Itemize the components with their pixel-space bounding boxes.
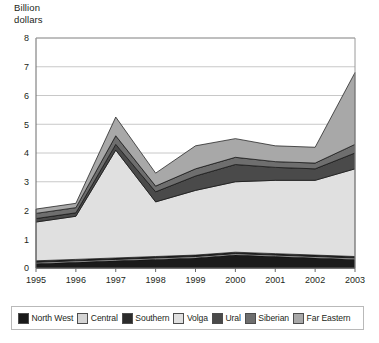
chart-legend: North WestCentralSouthernVolgaUralSiberi… xyxy=(11,306,364,330)
legend-item-label: Ural xyxy=(225,313,240,323)
legend-item-north-west[interactable]: North West xyxy=(18,313,73,324)
x-tick-label: 1995 xyxy=(26,275,46,285)
x-tick-label: 2000 xyxy=(225,275,245,285)
legend-item-ural[interactable]: Ural xyxy=(212,313,241,324)
legend-swatch-icon xyxy=(18,313,29,324)
legend-item-label: Volga xyxy=(187,313,208,323)
legend-swatch-icon xyxy=(173,313,184,324)
legend-item-label: Southern xyxy=(135,313,169,323)
stacked-area-chart: Billion dollars 012345678199519961997199… xyxy=(0,0,379,343)
legend-item-central[interactable]: Central xyxy=(77,313,118,324)
legend-item-label: Siberian xyxy=(258,313,289,323)
x-tick-label: 1997 xyxy=(106,275,126,285)
y-tick-label: 8 xyxy=(24,33,29,43)
x-tick-label: 1998 xyxy=(146,275,166,285)
legend-item-label: North West xyxy=(32,313,74,323)
y-tick-label: 4 xyxy=(24,148,29,158)
legend-item-volga[interactable]: Volga xyxy=(173,313,208,324)
y-tick-label: 5 xyxy=(24,120,29,130)
legend-swatch-icon xyxy=(77,313,88,324)
legend-item-label: Central xyxy=(91,313,118,323)
y-tick-label: 1 xyxy=(24,235,29,245)
legend-item-siberian[interactable]: Siberian xyxy=(245,313,289,324)
x-tick-label: 2003 xyxy=(345,275,365,285)
y-tick-label: 6 xyxy=(24,91,29,101)
legend-swatch-icon xyxy=(122,313,133,324)
legend-item-far-eastern[interactable]: Far Eastern xyxy=(293,313,350,324)
legend-item-label: Far Eastern xyxy=(307,313,351,323)
legend-swatch-icon xyxy=(293,313,304,324)
x-tick-label: 2001 xyxy=(265,275,285,285)
legend-item-southern[interactable]: Southern xyxy=(122,313,170,324)
y-tick-label: 7 xyxy=(24,62,29,72)
y-tick-label: 3 xyxy=(24,177,29,187)
x-tick-label: 1999 xyxy=(185,275,205,285)
legend-swatch-icon xyxy=(212,313,223,324)
y-tick-label: 0 xyxy=(24,263,29,273)
x-tick-label: 1996 xyxy=(66,275,86,285)
legend-swatch-icon xyxy=(245,313,256,324)
y-tick-label: 2 xyxy=(24,206,29,216)
plot-area: 0123456781995199619971998199920002001200… xyxy=(0,0,379,300)
x-tick-label: 2002 xyxy=(305,275,325,285)
